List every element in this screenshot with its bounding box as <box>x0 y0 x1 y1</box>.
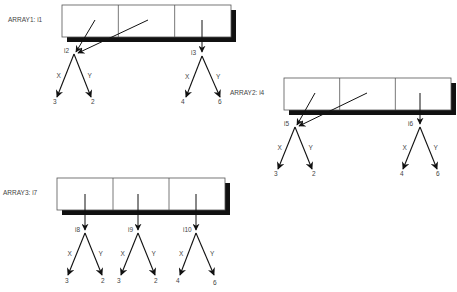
array-box <box>284 78 451 110</box>
y-edge-label: Y <box>434 144 439 151</box>
node-i5: i5X3Y2 <box>274 120 316 177</box>
leaf-value: 3 <box>65 277 69 284</box>
node-i10: i10X4Y6 <box>176 226 217 286</box>
node-i9: i9X3Y2 <box>117 226 158 284</box>
node-i8: i8X3Y2 <box>65 226 105 284</box>
leaf-value: 2 <box>101 277 105 284</box>
leaf-value: 6 <box>213 279 217 286</box>
leaf-value: 4 <box>181 98 185 105</box>
array-group-2: ARRAY2: i4i5X3Y2i6X4Y6 <box>230 78 456 177</box>
leaf-value: 2 <box>312 170 316 177</box>
diagram-canvas: ARRAY1: i1i2X3Y2i3X4Y6ARRAY2: i4i5X3Y2i6… <box>0 0 457 292</box>
leaf-value: 6 <box>218 98 222 105</box>
leaf-value: 4 <box>400 170 404 177</box>
leaf-value: 3 <box>53 98 57 105</box>
x-edge-label: X <box>278 144 283 151</box>
y-edge-label: Y <box>216 73 221 80</box>
array-box <box>57 178 225 210</box>
array-label: ARRAY3: i7 <box>3 189 38 196</box>
array-label: ARRAY1: i1 <box>8 16 43 23</box>
node-i6: i6X4Y6 <box>400 120 440 177</box>
x-edge-label: X <box>403 144 408 151</box>
node-label: i6 <box>408 120 413 127</box>
leaf-value: 3 <box>274 170 278 177</box>
node-label: i3 <box>191 49 196 56</box>
array-label: ARRAY2: i4 <box>230 89 265 96</box>
node-label: i8 <box>75 226 80 233</box>
node-i3: i3X4Y6 <box>181 49 222 105</box>
x-edge-label: X <box>121 250 126 257</box>
node-label: i5 <box>284 120 289 127</box>
array-group-3: ARRAY3: i7i8X3Y2i9X3Y2i10X4Y6 <box>3 178 230 286</box>
leaf-value: 6 <box>436 170 440 177</box>
y-edge-label: Y <box>99 250 104 257</box>
x-edge-label: X <box>179 250 184 257</box>
node-label: i2 <box>64 47 69 54</box>
node-label: i10 <box>183 226 192 233</box>
x-edge-label: X <box>185 73 190 80</box>
y-edge-label: Y <box>88 72 93 79</box>
leaf-value: 3 <box>117 277 121 284</box>
array-group-1: ARRAY1: i1i2X3Y2i3X4Y6 <box>8 5 236 105</box>
y-edge-label: Y <box>210 250 215 257</box>
node-label: i9 <box>128 226 133 233</box>
y-edge-label: Y <box>309 144 314 151</box>
x-edge-label: X <box>57 72 62 79</box>
leaf-value: 2 <box>154 277 158 284</box>
y-edge-label: Y <box>152 250 157 257</box>
x-edge-label: X <box>68 250 73 257</box>
leaf-value: 2 <box>91 98 95 105</box>
leaf-value: 4 <box>176 277 180 284</box>
node-i2: i2X3Y2 <box>53 47 95 105</box>
